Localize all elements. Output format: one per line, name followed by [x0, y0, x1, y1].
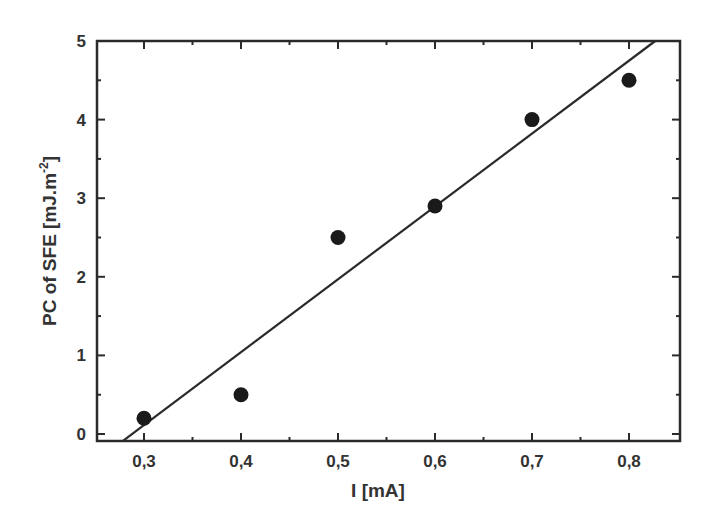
fit-line-segment [123, 41, 656, 441]
x-tick-label: 0,7 [520, 452, 544, 471]
x-tick-label: 0,4 [229, 452, 253, 471]
x-tick-label: 0,6 [423, 452, 447, 471]
data-point [234, 387, 249, 402]
y-tick-label: 1 [77, 346, 86, 365]
y-tick-label: 0 [77, 425, 86, 444]
x-tick-label: 0,3 [132, 452, 156, 471]
y-tick-label: 3 [77, 189, 86, 208]
data-points [137, 73, 637, 426]
scatter-chart: 0,30,40,50,60,70,8 012345 I [mA] PC of S… [0, 0, 712, 525]
x-tick-label: 0,8 [617, 452, 641, 471]
data-point [331, 230, 346, 245]
y-axis-title-main: PC of SFE [mJ.m [39, 173, 60, 326]
y-axis-title: PC of SFE [mJ.m-2] [37, 156, 60, 326]
data-point [622, 73, 637, 88]
x-axis-ticks: 0,30,40,50,60,70,8 [132, 41, 641, 471]
data-point [137, 411, 152, 426]
fit-line [123, 41, 656, 441]
y-axis-title-suffix: ] [39, 156, 60, 162]
data-point [428, 199, 443, 214]
y-tick-label: 5 [77, 32, 86, 51]
data-point [525, 112, 540, 127]
x-tick-label: 0,5 [326, 452, 350, 471]
y-axis-ticks: 012345 [77, 32, 680, 444]
y-tick-label: 4 [77, 111, 87, 130]
x-axis-title: I [mA] [351, 480, 405, 501]
y-tick-label: 2 [77, 268, 86, 287]
y-axis-title-superscript: -2 [37, 162, 51, 173]
